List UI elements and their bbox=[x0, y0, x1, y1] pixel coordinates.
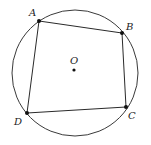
vertex-label-d: D bbox=[13, 116, 22, 127]
edge-ab bbox=[39, 21, 122, 33]
center-label-o: O bbox=[70, 55, 78, 66]
edge-cd bbox=[27, 107, 126, 113]
vertex-points: ABCD bbox=[13, 7, 136, 127]
vertex-label-c: C bbox=[128, 110, 136, 121]
vertex-point-d bbox=[25, 111, 29, 115]
circumcircle bbox=[12, 10, 138, 136]
vertex-point-b bbox=[120, 31, 124, 35]
vertex-point-c bbox=[124, 105, 128, 109]
cyclic-quadrilateral-diagram: O ABCD bbox=[0, 0, 151, 145]
center-point-o bbox=[72, 68, 75, 71]
quadrilateral-edges bbox=[27, 21, 126, 113]
vertex-label-b: B bbox=[125, 21, 133, 32]
edge-da bbox=[27, 21, 39, 113]
vertex-point-a bbox=[37, 19, 41, 23]
edge-bc bbox=[122, 33, 126, 107]
vertex-label-a: A bbox=[28, 7, 36, 18]
